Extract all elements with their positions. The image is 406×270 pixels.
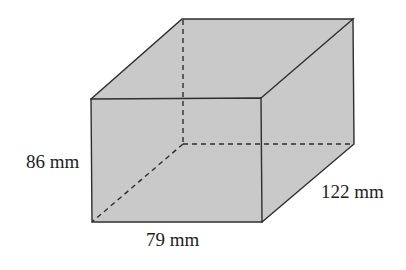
height-label: 86 mm (26, 151, 80, 172)
front-face (91, 98, 262, 222)
depth-label: 122 mm (321, 181, 384, 202)
rectangular-prism-diagram: 86 mm 79 mm 122 mm (0, 0, 406, 270)
width-label: 79 mm (146, 229, 200, 250)
